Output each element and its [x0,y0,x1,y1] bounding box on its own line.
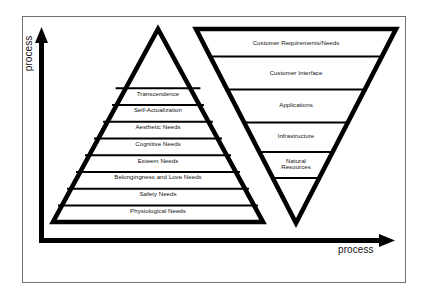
diagram-figure: process process Transcendence Self-Actua… [0,0,427,302]
pyramid-level-belongingness-and-love-needs: Belongingness and Love Needs [72,174,244,181]
inverted-level-applications: Applications [248,102,344,109]
inverted-level-customer-interface: Customer Interface [232,70,360,77]
y-axis-label: process [23,20,34,88]
natural-resources-line-2: Resources [281,163,311,170]
pyramid-level-physiological-needs: Physiological Needs [62,208,254,215]
pyramid-level-safety-needs: Safety Needs [70,191,246,198]
inverted-level-customer-requirements-needs: Customer Requirements/Needs [216,40,376,47]
inverted-level-natural-resources: Natural Resources [268,158,324,172]
y-axis-arrowhead [35,27,48,43]
x-axis-arrowhead [379,234,395,247]
x-axis-label: process [338,244,374,255]
inverted-level-infrastructure: Infrastructure [258,133,334,140]
pyramid-level-cognitive-needs: Cognitive Needs [94,141,222,148]
pyramid-level-self-actualization: Self-Actualization [104,107,212,114]
pyramid-level-transcendence: Transcendence [108,91,208,98]
pyramid-level-esteem-needs: Esteem Needs [88,158,228,165]
pyramid-level-aesthetic-needs: Aesthetic Needs [98,124,218,131]
